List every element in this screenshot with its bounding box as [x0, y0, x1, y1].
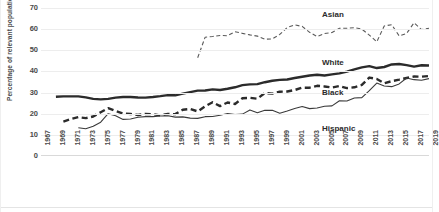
x-tick-label: 1969	[59, 130, 66, 160]
series-label-white: White	[322, 58, 344, 67]
x-tick-label: 1977	[119, 130, 126, 160]
series-line-black	[63, 76, 429, 121]
x-tick-label: 2001	[298, 130, 305, 160]
x-tick-label: 1983	[163, 130, 170, 160]
gridline	[41, 71, 429, 72]
x-tick-label: 2019	[432, 130, 439, 160]
x-tick-label: 1971	[74, 130, 81, 160]
x-tick-label: 1997	[268, 130, 275, 160]
x-tick-label: 1987	[193, 130, 200, 160]
plot-area	[41, 8, 429, 156]
y-axis-tick-labels: 010203040506070	[12, 0, 38, 212]
bottom-border	[0, 207, 433, 208]
x-tick-label: 2007	[342, 130, 349, 160]
x-tick-label: 1991	[223, 130, 230, 160]
x-tick-label: 1981	[148, 130, 155, 160]
x-axis-tick-labels: 1967196919711973197519771979198119831985…	[41, 158, 429, 202]
series-line-hispanic	[78, 78, 429, 129]
series-line-asian	[198, 23, 429, 58]
x-tick-label: 2009	[357, 130, 364, 160]
y-tick-label: 60	[12, 24, 38, 33]
gridline	[41, 8, 429, 9]
series-lines	[41, 8, 429, 156]
x-tick-label: 2005	[328, 130, 335, 160]
x-tick-label: 1973	[89, 130, 96, 160]
y-tick-label: 70	[12, 3, 38, 12]
x-tick-label: 1995	[253, 130, 260, 160]
x-tick-label: 1975	[104, 130, 111, 160]
series-label-black: Black	[322, 88, 343, 97]
y-tick-label: 20	[12, 109, 38, 118]
gridline	[41, 50, 429, 51]
y-tick-label: 30	[12, 88, 38, 97]
y-tick-label: 0	[12, 151, 38, 160]
y-tick-label: 10	[12, 130, 38, 139]
y-tick-label: 40	[12, 66, 38, 75]
gridline	[41, 93, 429, 94]
gridline	[41, 29, 429, 30]
right-border	[432, 0, 433, 212]
x-tick-label: 1985	[178, 130, 185, 160]
x-tick-label: 2011	[372, 130, 379, 160]
x-tick-label: 2015	[402, 130, 409, 160]
gridline	[41, 135, 429, 136]
x-tick-label: 1993	[238, 130, 245, 160]
x-tick-label: 1967	[44, 130, 51, 160]
y-tick-label: 50	[12, 45, 38, 54]
series-label-hispanic: Hispanic	[322, 124, 355, 133]
x-tick-label: 1989	[208, 130, 215, 160]
left-border	[0, 0, 1, 212]
x-axis-line	[41, 155, 429, 156]
series-line-white	[56, 64, 429, 99]
x-tick-label: 2003	[313, 130, 320, 160]
x-tick-label: 2017	[417, 130, 424, 160]
x-tick-label: 1979	[134, 130, 141, 160]
series-label-asian: Asian	[322, 10, 344, 19]
x-tick-label: 1999	[283, 130, 290, 160]
x-tick-label: 2013	[387, 130, 394, 160]
gridline	[41, 114, 429, 115]
